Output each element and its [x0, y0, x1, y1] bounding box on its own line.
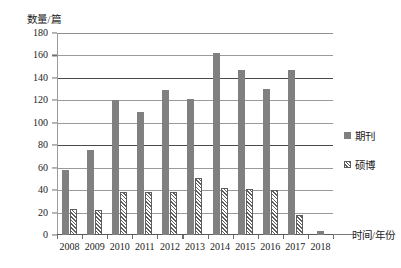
- y-axis-tick-label: 0: [43, 230, 48, 240]
- x-axis-tick-label: 2008: [60, 241, 80, 253]
- bar-journal: [137, 112, 144, 235]
- bar-thesis: [195, 178, 202, 235]
- bar-journal: [187, 99, 194, 235]
- plot-area: [57, 33, 333, 235]
- x-axis-tick-mark: [132, 235, 133, 239]
- x-axis-tick-label: 2011: [135, 241, 155, 253]
- x-axis-tick-label: 2015: [235, 241, 255, 253]
- bar-journal: [213, 53, 220, 235]
- legend-item[interactable]: 硕博: [344, 157, 375, 172]
- legend-swatch-journal-icon: [344, 132, 351, 139]
- x-axis-tick-mark: [333, 235, 334, 239]
- x-axis-tick-label: 2013: [185, 241, 205, 253]
- x-axis-tick-mark: [208, 235, 209, 239]
- x-axis-tick-mark: [157, 235, 158, 239]
- bar-journal: [62, 170, 69, 235]
- x-axis-tick-label: 2016: [260, 241, 280, 253]
- x-axis-line-extension: [333, 234, 353, 235]
- bar-group: [82, 150, 107, 235]
- y-axis-tick-labels: 020406080100120140160180: [0, 33, 57, 235]
- bar-group: [132, 112, 157, 235]
- x-axis-tick-label: 2017: [285, 241, 305, 253]
- bar-thesis: [95, 210, 102, 235]
- bar-group: [233, 70, 258, 235]
- x-axis-tick-mark: [283, 235, 284, 239]
- bar-thesis: [221, 188, 228, 235]
- x-axis-tick-mark: [182, 235, 183, 239]
- y-axis-tick-label: 40: [38, 185, 48, 195]
- bar-journal: [87, 150, 94, 235]
- y-axis-tick-label: 140: [33, 73, 48, 83]
- legend-label: 期刊: [355, 128, 375, 143]
- x-axis-tick-mark: [308, 235, 309, 239]
- bar-thesis: [296, 215, 303, 235]
- bar-journal: [162, 90, 169, 235]
- x-axis-tick-label: 2018: [310, 241, 330, 253]
- x-axis-tick-label: 2010: [110, 241, 130, 253]
- bar-thesis: [170, 192, 177, 235]
- x-axis-title: 时间/年份: [352, 227, 395, 242]
- y-axis-tick-label: 160: [33, 50, 48, 60]
- chart-legend: 期刊硕博: [344, 128, 375, 172]
- bar-thesis: [246, 189, 253, 235]
- x-axis-tick-mark: [258, 235, 259, 239]
- x-axis-tick-label: 2009: [85, 241, 105, 253]
- bar-journal: [288, 70, 295, 235]
- bar-group: [283, 70, 308, 235]
- bar-group: [258, 89, 283, 235]
- bar-thesis: [271, 190, 278, 235]
- y-axis-tick-label: 100: [33, 118, 48, 128]
- bar-group: [182, 99, 207, 235]
- bar-chart: 数量/篇 时间/年份 020406080100120140160180 2008…: [0, 0, 401, 268]
- x-axis-tick-labels: 2008200920102011201220132014201520162017…: [57, 241, 333, 257]
- bar-group: [208, 53, 233, 235]
- y-axis-tick-label: 60: [38, 163, 48, 173]
- bar-journal: [263, 89, 270, 235]
- y-axis-tick-label: 20: [38, 208, 48, 218]
- legend-label: 硕博: [355, 157, 375, 172]
- bar-series-container: [57, 33, 333, 235]
- x-axis-tick-label: 2012: [160, 241, 180, 253]
- legend-swatch-thesis-icon: [344, 161, 351, 168]
- x-axis-tick-mark: [233, 235, 234, 239]
- bar-thesis: [70, 209, 77, 235]
- x-axis-tick-mark: [57, 235, 58, 239]
- legend-item[interactable]: 期刊: [344, 128, 375, 143]
- bar-thesis: [145, 192, 152, 235]
- bar-group: [157, 90, 182, 235]
- bar-journal: [238, 70, 245, 235]
- y-axis-title: 数量/篇: [27, 11, 61, 26]
- x-axis-tick-mark: [82, 235, 83, 239]
- bar-thesis: [120, 192, 127, 235]
- bar-group: [57, 170, 82, 235]
- x-axis-tick-label: 2014: [210, 241, 230, 253]
- y-axis-tick-label: 120: [33, 95, 48, 105]
- bar-journal: [112, 100, 119, 235]
- bar-group: [107, 100, 132, 235]
- y-axis-tick-label: 80: [38, 140, 48, 150]
- x-axis-tick-mark: [107, 235, 108, 239]
- y-axis-tick-label: 180: [33, 28, 48, 38]
